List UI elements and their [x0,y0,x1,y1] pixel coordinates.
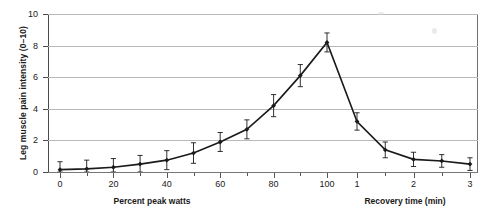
x-tick-pct-80 [274,173,275,178]
x-tick-min-3-label: 3 [467,179,472,189]
x-tick-min-3 [470,173,471,178]
gridline-y-10 [48,14,478,15]
gridline-y-2 [48,140,478,141]
data-point-9 [298,65,303,87]
series-polyline [60,42,470,169]
data-point-12 [383,142,388,158]
x-tick-pct-60 [220,173,221,178]
x-tick-min-2.5 [442,173,443,176]
data-point-7 [244,120,249,139]
data-point-6 [218,133,223,152]
data-point-15 [467,158,472,171]
data-point-11 [354,113,359,130]
data-series-line [48,14,478,172]
x-tick-pct-20-label: 20 [108,179,118,189]
data-point-4 [164,151,169,170]
plot-area [48,14,478,172]
y-tick-label-2: 2 [22,135,38,145]
y-tick-label-10: 10 [22,9,38,19]
x-tick-pct-100 [327,173,328,178]
y-tick-label-4: 4 [22,104,38,114]
scan-artifact-2 [432,28,437,34]
data-point-5 [191,143,196,164]
y-tick-label-0: 0 [22,167,38,177]
data-point-13 [411,152,416,166]
x-tick-pct-40 [167,173,168,178]
x-tick-pct-10 [87,173,88,176]
x-tick-pct-100-label: 100 [319,179,334,189]
x-tick-min-1.5 [385,173,386,176]
x-tick-min-2-label: 2 [411,179,416,189]
data-point-14 [439,155,444,168]
data-point-2 [111,159,116,172]
x-tick-pct-20 [113,173,114,178]
x-tick-pct-70 [247,173,248,176]
x-tick-min-1-label: 1 [354,179,359,189]
x-tick-pct-30 [140,173,141,176]
data-point-1 [84,160,89,172]
x-tick-min-2 [414,173,415,178]
data-point-0 [57,162,62,172]
x-tick-pct-50 [194,173,195,176]
plot-frame-right [477,14,478,173]
chart-figure: Leg muscle pain intensity (0–10) 0246810… [0,0,495,216]
x-axis-label-recovery: Recovery time (min) [364,196,445,206]
data-point-3 [138,155,143,172]
data-point-10 [324,33,329,52]
x-tick-pct-90 [300,173,301,176]
y-tick-label-8: 8 [22,41,38,51]
x-tick-pct-40-label: 40 [162,179,172,189]
x-tick-pct-0-label: 0 [57,179,62,189]
x-tick-min-1 [357,173,358,178]
gridline-y-8 [48,46,478,47]
plot-frame-left [48,14,49,173]
gridline-y-4 [48,109,478,110]
y-axis-label: Leg muscle pain intensity (0–10) [18,8,28,178]
data-point-8 [271,95,276,117]
gridline-y-6 [48,77,478,78]
x-tick-pct-0 [60,173,61,178]
x-axis-label-exercise: Percent peak watts [113,196,190,206]
y-tick-label-6: 6 [22,72,38,82]
x-tick-pct-80-label: 80 [269,179,279,189]
x-tick-pct-60-label: 60 [215,179,225,189]
scan-artifact-1 [378,12,384,15]
